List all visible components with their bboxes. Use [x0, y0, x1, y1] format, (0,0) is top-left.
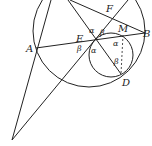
angle-alpha-bottom: α: [91, 46, 97, 55]
angle-beta-right: β: [113, 57, 119, 66]
label-B: B: [142, 28, 150, 39]
label-E: E: [75, 33, 84, 44]
label-D: D: [121, 77, 130, 88]
label-A: A: [25, 43, 33, 54]
angle-beta-left: β: [76, 44, 82, 53]
line-M-D-dashed: [121, 35, 123, 74]
line-apex-E-F: [12, 0, 128, 140]
angle-alpha-right: α: [113, 39, 119, 48]
angle-beta-top: β: [99, 28, 105, 37]
line-apex-A: [12, 0, 51, 140]
geometry-diagram: A B E F M D α β β α α β: [0, 0, 152, 146]
big-circle: [33, 0, 145, 87]
angle-alpha-top: α: [89, 26, 95, 35]
label-M: M: [117, 23, 129, 34]
label-F: F: [105, 3, 114, 14]
